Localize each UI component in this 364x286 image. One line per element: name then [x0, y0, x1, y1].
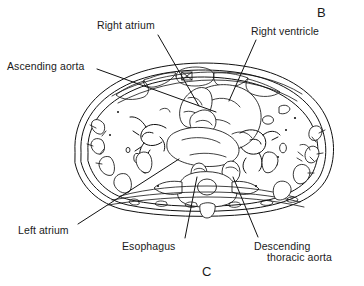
panel-letter-b: B: [317, 5, 326, 20]
label-right-ventricle: Right ventricle: [251, 26, 319, 38]
label-ascending-aorta: Ascending aorta: [7, 61, 84, 73]
label-left-atrium: Left atrium: [18, 225, 69, 237]
panel-letter-c: C: [202, 264, 212, 279]
label-descending-aorta-line2: thoracic aorta: [267, 252, 332, 264]
label-esophagus: Esophagus: [122, 241, 175, 253]
ribs-right: [262, 126, 325, 200]
label-right-atrium: Right atrium: [97, 20, 155, 32]
vertebra-outline: [154, 172, 259, 218]
figure-panel: Right atrium Right ventricle Ascending a…: [0, 0, 364, 286]
